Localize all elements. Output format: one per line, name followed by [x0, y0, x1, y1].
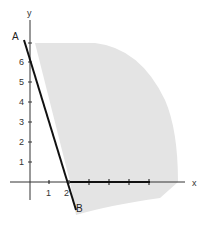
- x-axis-label: x: [192, 178, 197, 188]
- diagram-canvas: y x A B 1 2 3 4 5 6 1 2: [0, 0, 205, 225]
- y-tick-label: 5: [19, 77, 24, 87]
- y-tick-label: 1: [19, 157, 24, 167]
- y-tick-label: 6: [19, 57, 24, 67]
- point-a-label: A: [12, 31, 19, 42]
- y-tick-label: 4: [19, 97, 24, 107]
- x-tick-label: 1: [46, 188, 51, 198]
- y-tick-label: 3: [19, 117, 24, 127]
- y-tick-label: 2: [19, 137, 24, 147]
- y-axis-label: y: [27, 8, 32, 18]
- shaded-region: [35, 43, 178, 215]
- point-b-label: B: [76, 203, 83, 214]
- x-tick-label: 2: [64, 188, 69, 198]
